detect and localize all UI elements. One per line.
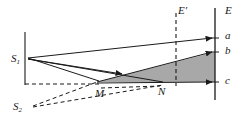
label-source-s2: S2 — [13, 101, 22, 112]
optics-diagram: S1 S2 M N E′ E a b c — [0, 0, 243, 124]
label-source-s1: S1 — [11, 53, 20, 64]
label-point-c: c — [225, 75, 230, 86]
label-point-n: N — [158, 86, 165, 97]
label-point-a: a — [225, 30, 231, 41]
label-reference-eprime: E′ — [178, 5, 187, 16]
label-point-m: M — [95, 88, 104, 99]
ray-n-to-c — [97, 82, 212, 83]
ray-s2-to-m — [33, 82, 97, 106]
label-screen-e: E — [225, 5, 232, 16]
diagram-canvas — [0, 0, 243, 124]
label-point-b: b — [225, 45, 231, 56]
ray-s1-to-a — [28, 38, 212, 58]
